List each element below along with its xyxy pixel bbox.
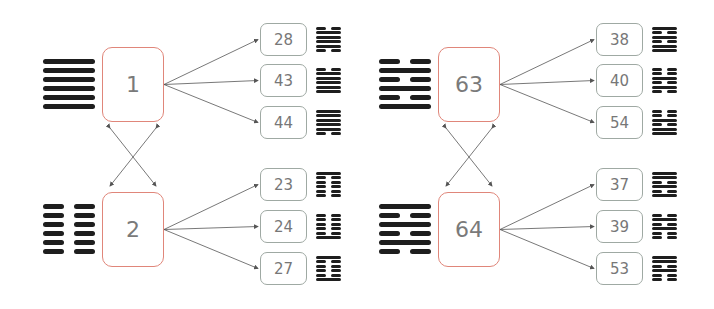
arrow-2-to-27 (164, 230, 258, 269)
hexagram-node-37: 37 (596, 168, 643, 201)
yin-line (652, 90, 677, 93)
yang-line (652, 176, 677, 179)
hexagram-node-24: 24 (260, 210, 307, 243)
hexagram-node-39: 39 (596, 210, 643, 243)
hexagram-node-38: 38 (596, 23, 643, 56)
hexagram-symbol-23 (316, 172, 341, 197)
hexagram-number: 53 (610, 260, 629, 278)
yang-line (379, 86, 431, 91)
hexagram-number: 44 (274, 114, 293, 132)
yin-line (316, 223, 341, 226)
yang-line (652, 132, 677, 135)
yin-line (316, 185, 341, 188)
yin-line (316, 68, 341, 71)
yang-line (652, 218, 677, 221)
yin-line (316, 227, 341, 230)
yang-line (43, 95, 95, 100)
arrow-63-to-54 (500, 85, 594, 123)
yang-line (652, 128, 677, 131)
yang-line (316, 110, 341, 113)
yin-line (316, 49, 341, 52)
arrow-1-to-28 (164, 40, 258, 85)
yin-line (652, 72, 677, 75)
yang-line (316, 81, 341, 84)
hexagram-number: 2 (126, 217, 140, 242)
hexagram-number: 64 (455, 217, 483, 242)
hexagram-symbol-44 (316, 110, 341, 135)
yang-line (316, 72, 341, 75)
yin-line (652, 214, 677, 217)
yin-line (316, 269, 341, 272)
yin-line (43, 240, 95, 245)
hexagram-symbol-43 (316, 68, 341, 93)
yang-line (652, 45, 677, 48)
yang-line (652, 49, 677, 52)
yang-line (316, 256, 341, 259)
yin-line (316, 265, 341, 268)
hexagram-node-54: 54 (596, 106, 643, 139)
yang-line (379, 204, 431, 209)
yang-line (316, 128, 341, 131)
yang-line (43, 59, 95, 64)
yin-line (43, 249, 95, 254)
yang-line (316, 123, 341, 126)
yang-line (316, 40, 341, 43)
yin-line (379, 231, 431, 236)
hexagram-symbol-40 (652, 68, 677, 93)
hexagram-node-44: 44 (260, 106, 307, 139)
hexagram-symbol-1 (43, 59, 95, 109)
hexagram-symbol-2 (43, 204, 95, 254)
hexagram-number: 43 (274, 72, 293, 90)
yang-line (316, 45, 341, 48)
yang-line (379, 222, 431, 227)
hexagram-node-23: 23 (260, 168, 307, 201)
arrow-63-to-40 (500, 81, 594, 85)
yang-line (43, 68, 95, 73)
arrow-2-to-23 (164, 185, 258, 230)
arrow-2-to-24 (164, 227, 258, 230)
yin-line (316, 190, 341, 193)
hexagram-symbol-28 (316, 27, 341, 52)
arrow-64-to-37 (500, 185, 594, 230)
yang-line (652, 27, 677, 30)
yang-line (652, 185, 677, 188)
yang-line (316, 86, 341, 89)
hexagram-symbol-53 (652, 256, 677, 281)
yin-line (652, 190, 677, 193)
yin-line (652, 81, 677, 84)
yin-line (652, 232, 677, 235)
yang-line (652, 194, 677, 197)
hexagram-symbol-39 (652, 214, 677, 239)
hexagram-number: 63 (455, 72, 483, 97)
yin-line (316, 214, 341, 217)
arrow-63-to-38 (500, 40, 594, 85)
yang-line (379, 68, 431, 73)
hexagram-number: 54 (610, 114, 629, 132)
yang-line (652, 77, 677, 80)
yin-line (379, 95, 431, 100)
yang-line (379, 240, 431, 245)
yang-line (652, 119, 677, 122)
hexagram-number: 23 (274, 176, 293, 194)
yin-line (652, 114, 677, 117)
yin-line (652, 265, 677, 268)
hexagram-node-64: 64 (438, 192, 500, 267)
yin-line (652, 223, 677, 226)
yang-line (652, 172, 677, 175)
hexagram-symbol-27 (316, 256, 341, 281)
yin-line (652, 110, 677, 113)
yin-line (652, 274, 677, 277)
hexagram-symbol-38 (652, 27, 677, 52)
hexagram-number: 39 (610, 218, 629, 236)
yang-line (316, 31, 341, 34)
hexagram-number: 27 (274, 260, 293, 278)
hexagram-node-28: 28 (260, 23, 307, 56)
hexagram-number: 38 (610, 31, 629, 49)
arrow-1-to-44 (164, 85, 258, 123)
yin-line (316, 194, 341, 197)
yang-line (652, 260, 677, 263)
yin-line (316, 274, 341, 277)
yang-line (316, 119, 341, 122)
yin-line (43, 213, 95, 218)
yang-line (316, 172, 341, 175)
